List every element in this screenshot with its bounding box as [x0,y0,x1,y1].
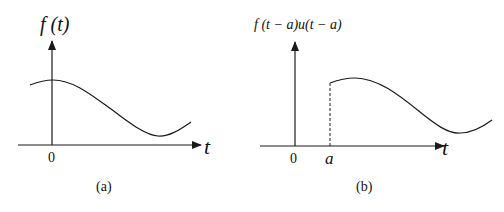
panel-a-curve [30,80,191,136]
panel-a [18,41,201,145]
panel-a-origin-tick: 0 [48,151,55,165]
panel-b-y-label: f (t − a)u(t − a) [254,18,342,32]
panel-b-caption: (b) [356,180,372,194]
panel-b-curve [330,78,492,133]
diagram-canvas [0,0,504,212]
panel-a-caption: (a) [96,180,112,194]
panel-b [260,42,492,146]
panel-a-y-label: f (t) [40,14,69,34]
panel-b-x-label: t [442,137,448,159]
panel-b-origin-tick: 0 [290,152,297,166]
panel-b-shift-tick: a [325,150,334,167]
panel-a-x-label: t [204,136,210,158]
